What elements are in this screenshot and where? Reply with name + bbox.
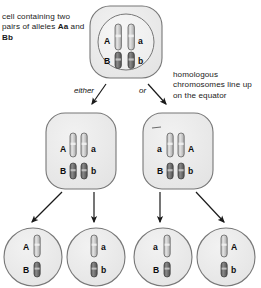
- parent-allele-A: A: [104, 37, 110, 46]
- caption-left-bb: Bb: [2, 33, 13, 42]
- metaphase-right-allele-a: a: [157, 145, 162, 154]
- metaphase-cell-right: [143, 113, 213, 189]
- chromosome-light-A: [70, 133, 76, 157]
- chromosome-light-A: [221, 235, 227, 257]
- arrow-or: [148, 84, 166, 104]
- gamete-4-allele-b: b: [231, 266, 236, 275]
- metaphase-left-allele-B: B: [60, 167, 66, 176]
- diagram-canvas: cell containing two pairs of alleles Aa …: [0, 0, 261, 288]
- chromosome-light-a: [164, 235, 170, 257]
- gamete-1: [4, 228, 62, 286]
- gamete-2: [67, 228, 125, 286]
- parent-allele-a: a: [138, 37, 143, 46]
- chromosome-dark-b: [178, 163, 184, 179]
- caption-left-line1: cell containing two: [2, 12, 70, 21]
- chromosome-dark-B: [34, 262, 40, 277]
- metaphase-left-allele-a: a: [91, 145, 96, 154]
- caption-left-line2-pre: pairs of alleles: [2, 22, 58, 31]
- chromosome-light-a: [167, 133, 173, 157]
- caption-left: cell containing two pairs of alleles Aa …: [2, 12, 86, 43]
- metaphase-right-allele-b: b: [188, 167, 193, 176]
- chromosome-dark-b: [81, 163, 87, 179]
- branch-label-either: either: [74, 86, 94, 95]
- branch-label-or: or: [139, 86, 146, 95]
- caption-left-line3-pre: and: [71, 22, 85, 31]
- chromosome-light-a: [128, 24, 134, 50]
- chromosome-light-a: [91, 235, 97, 257]
- caption-left-aa: Aa: [58, 22, 69, 31]
- metaphase-cell-left: [46, 113, 116, 189]
- gamete-4-allele-A: A: [231, 243, 237, 252]
- gamete-1-membrane: [4, 228, 62, 286]
- parent-allele-b: b: [138, 57, 143, 66]
- chromosome-dark-b: [91, 262, 97, 277]
- chromosome-light-A: [178, 133, 184, 157]
- gamete-2-allele-a: a: [101, 243, 106, 252]
- caption-right-line2: chromosomes line: [173, 80, 240, 89]
- chromosome-light-A: [34, 235, 40, 257]
- metaphase-left-allele-A: A: [60, 145, 66, 154]
- caption-right-line1: homologous: [173, 70, 218, 79]
- parent-cell: [90, 6, 162, 78]
- gamete-4: [197, 228, 255, 286]
- gamete-1-allele-A: A: [23, 243, 29, 252]
- chromosome-light-A: [115, 24, 121, 50]
- chromosome-light-a: [81, 133, 87, 157]
- metaphase-left-allele-b: b: [91, 167, 96, 176]
- metaphase-right-allele-A: A: [188, 145, 194, 154]
- gamete-3-allele-B: B: [153, 266, 159, 275]
- gamete-2-allele-b: b: [101, 266, 106, 275]
- chromosome-dark-b: [128, 52, 134, 69]
- gamete-3-membrane: [134, 228, 192, 286]
- gamete-1-allele-B: B: [23, 266, 29, 275]
- chromosome-dark-B: [115, 52, 121, 69]
- chromosome-dark-B: [164, 262, 170, 277]
- arrow-either: [92, 84, 106, 104]
- gamete-3: [134, 228, 192, 286]
- chromosome-dark-B: [70, 163, 76, 179]
- gamete-3-allele-a: a: [153, 243, 158, 252]
- arrow-to-gamete-1: [32, 192, 62, 222]
- arrow-to-gamete-4: [196, 192, 224, 222]
- chromosome-dark-b: [221, 262, 227, 277]
- parent-allele-B: B: [104, 57, 110, 66]
- caption-right: homologous chromosomes line up on the eq…: [173, 70, 261, 101]
- metaphase-right-allele-B: B: [157, 167, 163, 176]
- chromosome-dark-B: [167, 163, 173, 179]
